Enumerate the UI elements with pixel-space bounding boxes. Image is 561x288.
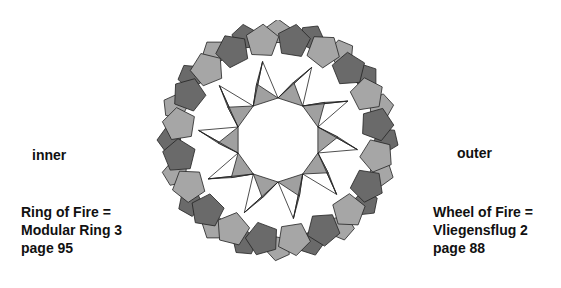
caption-line: page 95 xyxy=(21,239,122,257)
pentagon-unit xyxy=(350,170,382,202)
outer-caption: Wheel of Fire = Vliegensflug 2 page 88 xyxy=(433,203,533,257)
inner-label: inner xyxy=(32,146,66,164)
caption-line: Modular Ring 3 xyxy=(21,221,122,239)
origami-ring-figure xyxy=(150,20,410,270)
outer-label: outer xyxy=(457,144,492,162)
caption-line: Ring of Fire = xyxy=(21,203,122,221)
inner-caption: Ring of Fire = Modular Ring 3 page 95 xyxy=(21,203,122,257)
caption-line: Vliegensflug 2 xyxy=(433,221,533,239)
caption-line: Wheel of Fire = xyxy=(433,203,533,221)
caption-line: page 88 xyxy=(433,239,533,257)
